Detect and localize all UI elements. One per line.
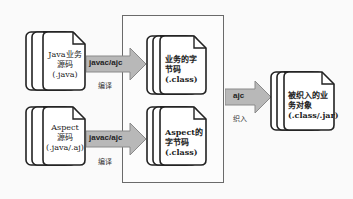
doc-line: (.java) — [45, 70, 85, 80]
java-source-doc: Java业务 源码 (.java) — [25, 30, 87, 92]
doc-line: Aspect的 — [165, 127, 207, 137]
doc-line: (.class) — [165, 74, 207, 84]
doc-line: 源码 — [45, 60, 85, 70]
doc-line: 务对象 — [288, 100, 336, 110]
compile-sublabel: 编译 — [98, 156, 112, 166]
doc-line: 源码 — [45, 133, 85, 143]
doc-line: 被织入的业 — [288, 90, 336, 100]
compile-sublabel: 编译 — [98, 80, 112, 90]
woven-object-doc: 被织入的业 务对象 (.class/.jar) — [270, 70, 336, 132]
doc-line: Java业务 — [45, 50, 85, 60]
weave-sublabel: 织入 — [233, 113, 247, 123]
weave-arrow: ajc — [225, 80, 273, 114]
compile-arrow-aspect: javac/ajc — [86, 122, 148, 156]
compile-tool-label: javac/ajc — [89, 58, 122, 67]
doc-line: (.class) — [165, 147, 207, 157]
doc-line: 节码 — [165, 64, 207, 74]
doc-line: 业务的字 — [165, 54, 207, 64]
weave-tool-label: ajc — [233, 91, 244, 100]
aspect-bytecode-doc: Aspect的 字节码 (.class) — [146, 105, 208, 167]
doc-line: (.class/.jar) — [288, 110, 336, 120]
doc-line: Aspect — [45, 123, 85, 133]
compile-tool-label: javac/ajc — [89, 133, 122, 142]
compile-arrow-java: javac/ajc — [86, 47, 148, 81]
doc-line: 字节码 — [165, 137, 207, 147]
aspect-source-doc: Aspect 源码 (.java/.aj) — [25, 105, 87, 167]
doc-line: (.java/.aj) — [45, 143, 85, 153]
business-bytecode-doc: 业务的字 节码 (.class) — [146, 34, 208, 96]
